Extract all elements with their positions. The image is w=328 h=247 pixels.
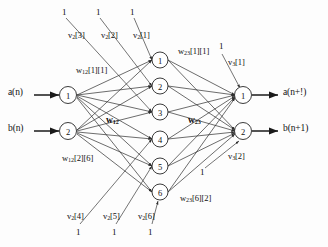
hidden-node-3: 3 (152, 104, 168, 120)
weight-label-v2-2: v2[2] (101, 31, 118, 40)
svg-text:2: 2 (66, 127, 70, 137)
weight-label-v2-1: v2[1] (133, 31, 150, 40)
weight-label-w23-6-2: w23[6][2] (180, 194, 211, 203)
bias-value-bottom-3: 1 (148, 228, 152, 237)
hidden-node-2: 2 (152, 78, 168, 94)
svg-text:1: 1 (158, 56, 162, 66)
bias-value-top-2: 1 (96, 8, 100, 17)
svg-text:3: 3 (158, 108, 162, 118)
bias-value-output-2: 1 (200, 168, 204, 177)
svg-text:1: 1 (241, 91, 245, 101)
weight-label-v2-5: v2[5] (103, 212, 120, 221)
input-signal-label-a: a(n) (8, 88, 23, 98)
hidden-node-6: 6 (152, 184, 168, 200)
svg-text:1: 1 (66, 91, 70, 101)
weight-label-v2-3: v2[3] (68, 31, 85, 40)
hidden-node-5: 5 (152, 158, 168, 174)
bias-value-top-3: 1 (130, 8, 134, 17)
svg-text:5: 5 (158, 162, 162, 172)
weight-label-w23-1-1: w23[1][1] (178, 47, 209, 56)
network-graph-svg: 1 2 1 2 3 4 5 6 (0, 0, 328, 247)
weight-label-v2-6: v2[6] (138, 212, 155, 221)
weight-label-v3-1: v3[1] (228, 58, 245, 67)
svg-text:6: 6 (158, 188, 162, 198)
bias-value-output-1: 1 (219, 42, 223, 51)
bias-value-top-1: 1 (62, 8, 66, 17)
neural-network-diagram: 1 2 1 2 3 4 5 6 (0, 0, 328, 247)
svg-text:2: 2 (241, 127, 245, 137)
bias-value-bottom-2: 1 (112, 228, 116, 237)
hidden-node-4: 4 (152, 131, 168, 147)
weight-label-w12-2-6: w12[2][6] (62, 154, 93, 163)
svg-text:2: 2 (158, 82, 162, 92)
input-node-1: 1 (60, 87, 77, 104)
output-signal-label-a: a(n+!) (283, 88, 306, 98)
output-node-1: 1 (235, 87, 252, 104)
weight-label-w12-1-1: w12[1][1] (76, 66, 107, 75)
input-node-2: 2 (60, 123, 77, 140)
weight-label-v2-4: v2[4] (67, 212, 84, 221)
bias-value-bottom-1: 1 (76, 228, 80, 237)
output-signal-label-b: b(n+1) (283, 124, 308, 134)
input-signal-label-b: b(n) (8, 124, 23, 134)
hidden-node-1: 1 (152, 52, 168, 68)
weight-matrix-label-w12: w12 (106, 116, 119, 126)
weight-matrix-label-w23: w23 (188, 116, 201, 126)
edges-input-to-hidden (77, 60, 152, 192)
weight-label-v3-2: v3[2] (228, 152, 245, 161)
output-node-2: 2 (235, 123, 252, 140)
